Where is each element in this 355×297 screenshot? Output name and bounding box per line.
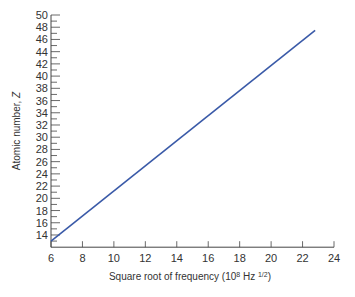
y-tick-label: 14 [36,229,48,241]
y-tick-label: 38 [36,82,48,94]
x-tick-label: 6 [48,252,54,264]
x-axis: 681012141618202224 [48,241,340,264]
x-tick-label: 18 [234,252,246,264]
x-axis-title: Square root of frequency (108 Hz 1/2) [109,271,271,283]
y-tick-label: 16 [36,217,48,229]
x-tick-label: 10 [108,252,120,264]
y-tick-label: 50 [36,9,48,21]
y-tick-label: 36 [36,95,48,107]
x-tick-label: 8 [79,252,85,264]
y-tick-label: 42 [36,58,48,70]
y-axis: 14161820222426283032343638404244464850 [36,9,60,247]
y-tick-label: 20 [36,192,48,204]
y-tick-label: 34 [36,107,48,119]
y-tick-label: 46 [36,33,48,45]
chart: 14161820222426283032343638404244464850 6… [0,0,355,297]
x-tick-label: 22 [296,252,308,264]
y-tick-label: 28 [36,143,48,155]
y-tick-label: 44 [36,46,48,58]
y-axis-title: Atomic number, Z [11,91,22,170]
y-tick-label: 18 [36,205,48,217]
y-tick-label: 32 [36,119,48,131]
x-tick-label: 20 [265,252,277,264]
x-tick-label: 14 [171,252,183,264]
x-tick-label: 24 [328,252,340,264]
x-tick-label: 16 [202,252,214,264]
y-tick-label: 22 [36,180,48,192]
data-line [51,30,315,241]
y-tick-label: 48 [36,21,48,33]
y-tick-label: 40 [36,70,48,82]
y-tick-label: 30 [36,131,48,143]
plot-area [51,30,315,241]
y-tick-label: 26 [36,156,48,168]
x-tick-label: 12 [139,252,151,264]
y-tick-label: 24 [36,168,48,180]
